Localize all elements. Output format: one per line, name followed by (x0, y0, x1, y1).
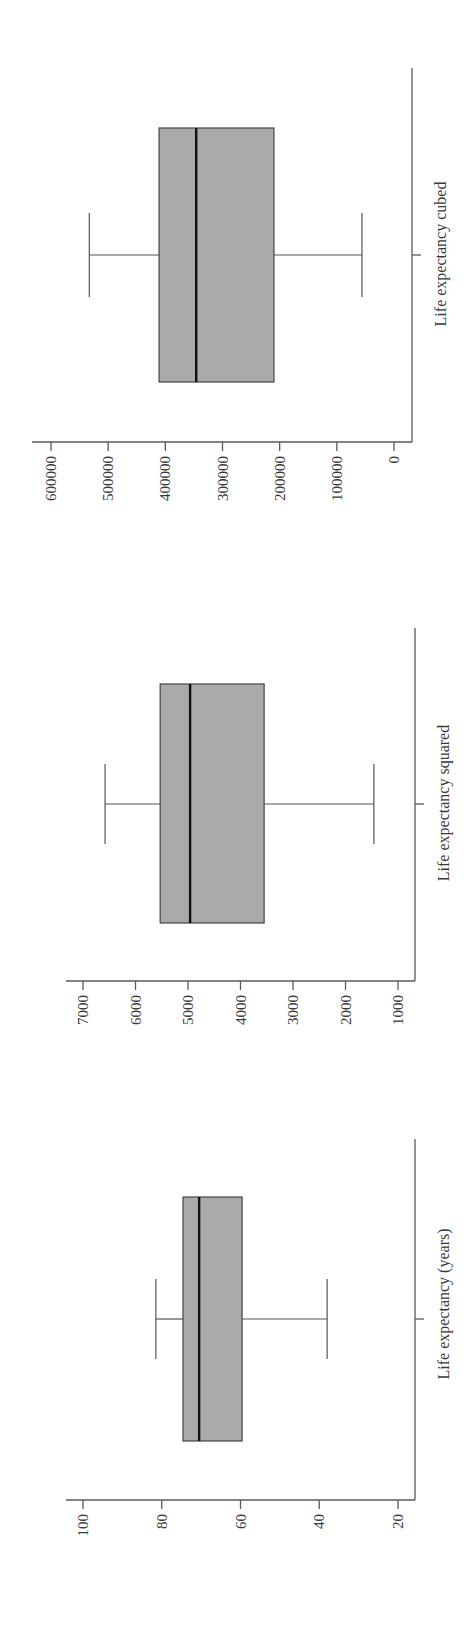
tick-label: 200000 (272, 456, 288, 501)
boxplot-panel-squared: 7000600050004000300020001000Life expecta… (66, 628, 453, 1025)
tick-label: 80 (154, 1514, 170, 1529)
tick-label: 6000 (128, 995, 144, 1025)
tick-label: 500000 (100, 456, 116, 501)
iqr-box (159, 128, 274, 382)
iqr-box (160, 684, 264, 923)
category-label: Life expectancy squared (435, 725, 453, 881)
category-label: Life expectancy cubed (432, 182, 450, 327)
tick-label: 4000 (233, 995, 249, 1025)
tick-label: 7000 (75, 995, 91, 1025)
boxplot-panel-cubed: 6000005000004000003000002000001000000Lif… (32, 68, 450, 501)
tick-label: 20 (390, 1514, 406, 1529)
tick-label: 5000 (180, 995, 196, 1025)
tick-label: 600000 (43, 456, 59, 501)
tick-label: 0 (386, 456, 402, 464)
tick-label: 60 (233, 1514, 249, 1529)
tick-label: 100 (75, 1514, 91, 1537)
tick-label: 40 (311, 1514, 327, 1529)
tick-label: 300000 (215, 456, 231, 501)
category-label: Life expectancy (years) (435, 1228, 453, 1379)
tick-label: 3000 (285, 995, 301, 1025)
chart-figure: 10080604020Life expectancy (years)700060… (0, 0, 474, 1634)
iqr-box (183, 1197, 242, 1441)
tick-label: 400000 (157, 456, 173, 501)
boxplot-panel-years: 10080604020Life expectancy (years) (66, 1139, 453, 1537)
tick-label: 100000 (329, 456, 345, 501)
boxplot-svg: 10080604020Life expectancy (years)700060… (0, 0, 474, 1634)
tick-label: 2000 (338, 995, 354, 1025)
tick-label: 1000 (390, 995, 406, 1025)
